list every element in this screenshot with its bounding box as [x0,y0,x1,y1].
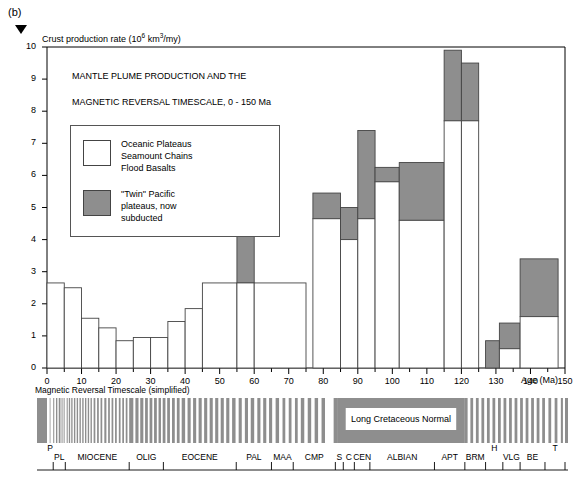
timescale-normal-chron [78,398,79,443]
x-tick-label: 90 [343,376,373,386]
stage-label: OLIG [116,452,176,462]
x-tick-label: 140 [515,376,545,386]
timescale-normal-chron [534,398,537,443]
timescale-normal-chron [133,398,135,443]
timescale-normal-chron [127,398,129,443]
x-tick-label: 60 [239,376,269,386]
bar-open-segment [99,328,116,368]
plot-canvas [0,0,582,484]
timescale-normal-chron [473,398,476,443]
timescale-normal-chron [196,398,198,443]
timescale-normal-chron [152,398,154,443]
timescale-normal-chron [523,398,526,443]
timescale-normal-chron [117,398,119,443]
y-tick-label: 10 [14,41,36,51]
timescale-normal-chron [242,398,245,443]
x-tick-label: 20 [101,376,131,386]
timescale-normal-chron [468,398,471,443]
timescale-normal-chron [285,398,288,443]
timescale-normal-chron [124,398,126,443]
bar-open-segment [313,219,341,368]
timescale-strip [37,398,568,443]
bar-open-segment [185,309,202,368]
timescale-normal-chron [185,398,187,443]
timescale-normal-chron [490,398,493,443]
x-tick-label: 40 [170,376,200,386]
timescale-normal-chron [512,398,515,443]
bar-open-segment [254,283,306,368]
timescale-normal-chron [113,398,115,443]
timescale-normal-chron [254,398,257,443]
timescale-normal-chron [102,398,104,443]
timescale-normal-chron [50,398,53,443]
timescale-normal-chron [148,398,150,443]
timescale-normal-chron [484,398,487,443]
timescale-normal-chron [495,398,498,443]
timescale-normal-chron [551,398,554,443]
timescale-normal-chron [539,398,542,443]
timescale-normal-chron [517,398,520,443]
timescale-normal-chron [73,398,74,443]
x-tick-label: 120 [446,376,476,386]
timescale-normal-chron [291,398,294,443]
timescale-normal-chron [63,398,64,443]
timescale-normal-chron [304,398,307,443]
x-tick-label: 130 [481,376,511,386]
bar-open-segment [116,341,133,368]
timescale-normal-chron [325,398,334,443]
timescale-normal-chron [298,398,301,443]
bar-open-segment [237,283,254,368]
timescale-normal-chron [248,398,251,443]
bar-grey-segment [313,193,341,219]
bar-grey-segment [358,130,375,218]
timescale-normal-chron [89,398,90,443]
timescale-normal-chron [266,398,269,443]
y-tick-label: 7 [14,137,36,147]
x-tick-label: 70 [274,376,304,386]
x-tick-label: 0 [32,376,62,386]
timescale-normal-chron [218,398,220,443]
stage-label: T [525,443,582,453]
timescale-normal-chron [86,398,87,443]
x-tick-label: 150 [550,376,580,386]
bar-open-segment [47,283,64,368]
y-tick-label: 4 [14,234,36,244]
y-tick-label: 5 [14,202,36,212]
y-tick-label: 2 [14,298,36,308]
bar-grey-segment [520,259,558,317]
legend-label-2: "Twin" Pacific plateaus, now subducted [121,188,177,224]
timescale-normal-chron [545,398,548,443]
timescale-normal-chron [57,398,58,443]
x-tick-label: 80 [308,376,338,386]
bar-open-segment [461,121,478,368]
x-tick-label: 110 [412,376,442,386]
timescale-caption: Magnetic Reversal Timescale (simplified) [35,386,189,396]
y-tick-label: 3 [14,266,36,276]
x-tick-label: 100 [377,376,407,386]
bar-open-segment [499,349,520,368]
timescale-normal-chron [175,398,177,443]
bar-open-segment [202,283,237,368]
x-tick-label: 10 [67,376,97,386]
timescale-normal-chron [68,398,69,443]
y-tick-label: 6 [14,169,36,179]
timescale-normal-chron [260,398,263,443]
timescale-normal-chron [157,398,159,443]
timescale-normal-chron [501,398,504,443]
bar-open-segment [520,317,558,368]
bar-grey-segment [341,208,358,240]
y-tick-label: 9 [14,73,36,83]
timescale-normal-chron [60,398,61,443]
timescale-normal-chron [65,398,67,443]
timescale-normal-chron [272,398,275,443]
legend: Oceanic Plateaus Seamount Chains Flood B… [70,125,280,237]
timescale-normal-chron [213,398,215,443]
timescale-normal-chron [84,398,85,443]
timescale-normal-chron [121,398,123,443]
timescale-normal-chron [165,398,167,443]
y-tick-label: 0 [14,362,36,372]
long-cretaceous-normal-label: Long Cretaceous Normal [346,408,457,430]
bar-open-segment [64,288,81,368]
bar-open-segment [444,121,461,368]
bar-open-segment [399,220,444,368]
